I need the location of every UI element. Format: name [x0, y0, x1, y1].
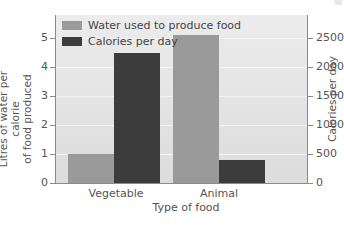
legend: Water used to produce food Calories per … — [62, 17, 241, 49]
left-tick — [50, 183, 55, 184]
bar-animal-water — [173, 35, 219, 183]
bar-animal-calories — [219, 160, 265, 183]
bar-vegetable-calories — [114, 53, 160, 184]
right-tick-label: 0 — [316, 177, 323, 189]
bar-vegetable-water — [68, 154, 114, 183]
legend-swatch-water — [62, 21, 82, 30]
left-y-axis-title-line1: Litres of water per calorie — [0, 64, 21, 174]
x-axis — [55, 183, 308, 184]
legend-swatch-calories — [62, 37, 82, 46]
legend-label-calories: Calories per day — [88, 35, 178, 48]
legend-item-calories: Calories per day — [62, 33, 241, 49]
left-tick — [50, 67, 55, 68]
left-tick-label: 5 — [38, 32, 48, 44]
left-tick-label: 2 — [38, 119, 48, 131]
left-tick — [50, 96, 55, 97]
left-y-axis-title-line2: of food produced — [21, 64, 33, 174]
right-tick-label: 2500 — [316, 32, 344, 44]
left-tick — [50, 38, 55, 39]
right-tick — [308, 38, 313, 39]
left-y-axis — [55, 15, 56, 184]
right-tick — [308, 183, 313, 184]
left-tick-label: 0 — [38, 177, 48, 189]
left-tick-label: 3 — [38, 90, 48, 102]
right-tick — [308, 96, 313, 97]
left-tick-label: 1 — [38, 148, 48, 160]
right-tick-label: 500 — [316, 148, 337, 160]
left-tick — [50, 154, 55, 155]
right-y-axis-title: Calories per day — [326, 49, 338, 149]
x-axis-title: Type of food — [131, 201, 241, 214]
left-tick — [50, 125, 55, 126]
legend-item-water: Water used to produce food — [62, 17, 241, 33]
x-category-vegetable: Vegetable — [76, 187, 156, 200]
x-category-animal: Animal — [179, 187, 259, 200]
right-y-axis — [307, 15, 308, 184]
left-y-axis-title: Litres of water per calorie of food prod… — [0, 64, 33, 174]
legend-label-water: Water used to produce food — [88, 19, 241, 32]
right-tick — [308, 67, 313, 68]
right-tick — [308, 154, 313, 155]
left-tick-label: 4 — [38, 61, 48, 73]
corner-decoration — [334, 0, 342, 5]
right-tick — [308, 125, 313, 126]
